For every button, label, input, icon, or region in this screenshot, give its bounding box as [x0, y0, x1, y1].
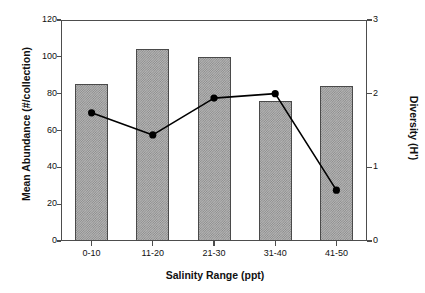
data-point-marker — [210, 94, 217, 101]
y-axis-left-tick-label: 80 — [17, 88, 57, 98]
x-axis-tick — [91, 241, 92, 246]
y-axis-left-tick-label: 0 — [17, 235, 57, 245]
y-axis-right-tick — [367, 19, 372, 20]
y-axis-right-tick — [367, 93, 372, 94]
plot-area: 020406080100120 0123 0-1011-2021-3031-40… — [61, 20, 367, 241]
y-axis-left-tick-label: 60 — [17, 125, 57, 135]
x-axis-tick-label: 0-10 — [62, 248, 122, 258]
y-axis-right-tick — [367, 240, 372, 241]
x-axis-tick-label: 41-50 — [306, 248, 366, 258]
line-series — [61, 20, 367, 241]
data-point-marker — [333, 187, 340, 194]
y-axis-left-tick-label: 100 — [17, 51, 57, 61]
x-axis-tick-label: 11-20 — [123, 248, 183, 258]
diversity-markers — [88, 90, 340, 194]
y-axis-right-tick-label: 1 — [373, 161, 397, 171]
data-point-marker — [88, 109, 95, 116]
x-axis-tick-label: 31-40 — [245, 248, 305, 258]
x-axis-tick — [213, 241, 214, 246]
y-axis-right-title: Diversity (H') — [408, 38, 420, 218]
diversity-line — [92, 94, 337, 191]
data-point-marker — [149, 131, 156, 138]
y-axis-right-tick — [367, 167, 372, 168]
x-axis-tick — [152, 241, 153, 246]
x-axis-tick — [336, 241, 337, 246]
y-axis-right-tick-label: 0 — [373, 235, 397, 245]
y-axis-right-tick-label: 3 — [373, 14, 397, 24]
chart-figure: Mean Abundance (#/collection) Diversity … — [0, 0, 425, 293]
data-point-marker — [272, 90, 279, 97]
y-axis-left-tick-label: 120 — [17, 14, 57, 24]
y-axis-right-tick-label: 2 — [373, 88, 397, 98]
x-axis-tick-label: 21-30 — [184, 248, 244, 258]
x-axis-title: Salinity Range (ppt) — [56, 269, 374, 281]
y-axis-left-tick-label: 20 — [17, 198, 57, 208]
y-axis-left-tick-label: 40 — [17, 161, 57, 171]
x-axis-tick — [275, 241, 276, 246]
